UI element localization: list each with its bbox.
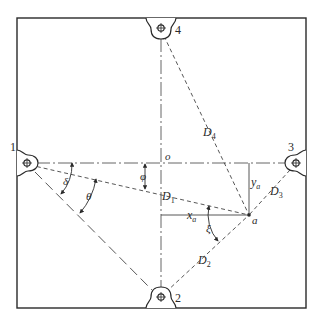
node-label-1: 1 (10, 140, 16, 154)
angle-label-delta: δ (63, 175, 69, 187)
label-d2: D2 (197, 253, 211, 269)
sensor-layout-diagram: 1 4 3 2 o a D1 D2 D3 D4 xa ya δ θ φ ξ (0, 0, 325, 321)
node-label-4: 4 (175, 23, 181, 37)
angle-label-xi: ξ (206, 222, 211, 235)
origin-label: o (165, 150, 171, 162)
sensor-node-4 (146, 18, 176, 39)
label-d4: D4 (202, 125, 216, 141)
label-d3: D3 (269, 184, 283, 200)
label-ya: ya (250, 175, 260, 191)
angle-label-phi: φ (140, 170, 146, 182)
sensor-node-2 (146, 287, 176, 308)
label-d1: D1 (161, 189, 175, 205)
node-label-2: 2 (175, 291, 181, 305)
label-xa: xa (186, 208, 196, 224)
point-a-dot (247, 213, 251, 217)
angle-label-theta: θ (86, 190, 92, 202)
node-label-3: 3 (288, 140, 294, 154)
sensor-node-1 (17, 150, 38, 176)
point-a-label: a (252, 214, 258, 226)
